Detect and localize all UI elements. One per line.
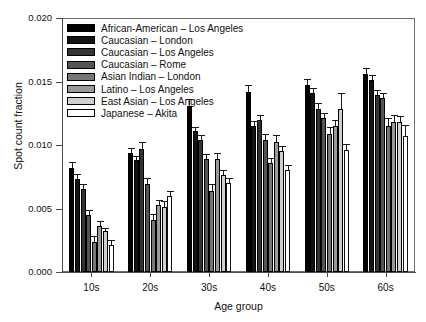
error-bar-cap	[363, 68, 370, 69]
bar	[369, 80, 374, 272]
bar	[380, 98, 385, 272]
error-bar-line	[405, 125, 406, 136]
error-bar-cap	[369, 75, 376, 76]
error-bar-cap	[397, 116, 404, 117]
bar	[375, 95, 380, 272]
bar	[363, 74, 368, 272]
error-bar-cap	[380, 93, 387, 94]
bar	[403, 136, 408, 272]
error-bar-cap	[385, 118, 392, 119]
error-bar-cap	[402, 125, 409, 126]
error-bar-line	[388, 118, 389, 126]
error-bar-line	[394, 115, 395, 123]
bar	[386, 126, 391, 272]
figure-bar-chart: 0.0000.0050.0100.0150.020 10s20s30s40s50…	[0, 0, 426, 322]
error-bar-cap	[374, 90, 381, 91]
bar	[397, 122, 402, 272]
bar	[391, 122, 396, 272]
bar-group-60s	[0, 0, 426, 322]
